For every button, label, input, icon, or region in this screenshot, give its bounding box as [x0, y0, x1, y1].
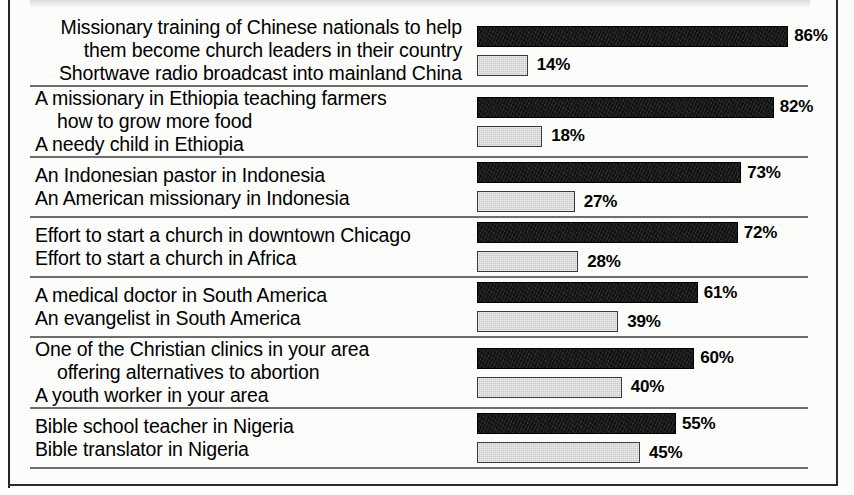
bar-label-b: A youth worker in your area [35, 384, 468, 407]
bar-group: Missionary training of Chinese nationals… [30, 16, 808, 87]
bar-group-inner: An Indonesian pastor in IndonesiaAn Amer… [30, 158, 808, 216]
bar-group-inner: A medical doctor in South AmericaAn evan… [30, 278, 808, 336]
bar-row: 28% [477, 250, 808, 274]
bar-group: A missionary in Ethiopia teaching farmer… [30, 87, 808, 158]
bar-group-labels: An Indonesian pastor in IndonesiaAn Amer… [30, 164, 468, 210]
bar-group-bars: 86%14% [468, 24, 828, 77]
bar-group-labels: One of the Christian clinics in your are… [30, 338, 468, 407]
bar-label-a: how to grow more food [35, 110, 468, 133]
paired-bar-chart: Missionary training of Chinese nationals… [30, 16, 808, 474]
bar-label-a: Effort to start a church in downtown Chi… [35, 224, 468, 247]
bar-group-labels: Missionary training of Chinese nationals… [30, 16, 468, 85]
bar-row: 86% [477, 24, 828, 48]
bar-row: 14% [477, 53, 828, 77]
bar-label-a: A missionary in Ethiopia teaching farmer… [35, 87, 468, 110]
bar-group-bars: 82%18% [468, 95, 813, 148]
bar-label-a: Missionary training of Chinese nationals… [35, 16, 462, 39]
bar-label-b: A needy child in Ethiopia [35, 133, 468, 156]
bar-value-label: 18% [551, 126, 584, 146]
page-frame-bottom-border [8, 484, 838, 486]
bar-group-labels: Effort to start a church in downtown Chi… [30, 224, 468, 270]
bar-dark [477, 348, 694, 369]
bar-group-bars: 72%28% [468, 221, 808, 274]
bar-row: 40% [477, 375, 808, 399]
bar-row: 60% [477, 346, 808, 370]
bar-group: One of the Christian clinics in your are… [30, 338, 808, 409]
page-frame-left-border [8, 0, 10, 488]
bar-group-labels: A missionary in Ethiopia teaching farmer… [30, 87, 468, 156]
bar-value-label: 14% [537, 55, 570, 75]
bar-value-label: 72% [744, 223, 777, 243]
scanned-page: Missionary training of Chinese nationals… [0, 0, 854, 495]
bar-group: Bible school teacher in NigeriaBible tra… [30, 409, 808, 469]
bar-row: 82% [477, 95, 813, 119]
bar-group-labels: A medical doctor in South AmericaAn evan… [30, 284, 468, 330]
bar-group-inner: Missionary training of Chinese nationals… [30, 16, 808, 85]
bar-group-bars: 73%27% [468, 161, 808, 214]
bar-label-a: One of the Christian clinics in your are… [35, 338, 468, 361]
bar-label-a: A medical doctor in South America [35, 284, 468, 307]
bar-label-a: offering alternatives to abortion [35, 361, 468, 384]
bar-group-labels: Bible school teacher in NigeriaBible tra… [30, 415, 468, 461]
bar-group: An Indonesian pastor in IndonesiaAn Amer… [30, 158, 808, 218]
bar-label-b: Bible translator in Nigeria [35, 438, 468, 461]
bar-value-label: 73% [747, 163, 780, 183]
bar-light [477, 126, 542, 147]
bar-value-label: 39% [627, 312, 660, 332]
bar-label-b: An evangelist in South America [35, 307, 468, 330]
bar-light [477, 191, 575, 212]
page-frame-right-border [836, 0, 838, 486]
bar-light [477, 442, 640, 463]
bar-row: 27% [477, 190, 808, 214]
bar-value-label: 61% [704, 283, 737, 303]
bar-light [477, 251, 578, 272]
bar-label-a: An Indonesian pastor in Indonesia [35, 164, 468, 187]
bar-light [477, 311, 618, 332]
bar-row: 45% [477, 441, 808, 465]
bar-label-a: Bible school teacher in Nigeria [35, 415, 468, 438]
bar-label-b: An American missionary in Indonesia [35, 187, 468, 210]
bar-value-label: 27% [584, 192, 617, 212]
bar-group-inner: One of the Christian clinics in your are… [30, 338, 808, 407]
bar-group-bars: 61%39% [468, 281, 808, 334]
bar-light [477, 55, 528, 76]
bar-dark [477, 413, 676, 434]
bar-row: 73% [477, 161, 808, 185]
bar-value-label: 82% [780, 97, 813, 117]
bar-value-label: 45% [649, 443, 682, 463]
bar-dark [477, 282, 698, 303]
bar-group-bars: 60%40% [468, 346, 808, 399]
bar-value-label: 55% [682, 414, 715, 434]
bar-group-inner: A missionary in Ethiopia teaching farmer… [30, 87, 808, 156]
bar-row: 18% [477, 124, 813, 148]
bar-dark [477, 162, 741, 183]
bar-group: A medical doctor in South AmericaAn evan… [30, 278, 808, 338]
bar-group-inner: Bible school teacher in NigeriaBible tra… [30, 409, 808, 467]
bar-label-a: them become church leaders in their coun… [35, 39, 462, 62]
bar-row: 61% [477, 281, 808, 305]
bar-row: 39% [477, 310, 808, 334]
bar-label-b: Shortwave radio broadcast into mainland … [35, 62, 462, 85]
bar-dark [477, 26, 788, 47]
bar-value-label: 40% [631, 377, 664, 397]
bar-row: 55% [477, 412, 808, 436]
bar-value-label: 28% [587, 252, 620, 272]
bar-value-label: 86% [794, 26, 827, 46]
bar-dark [477, 222, 738, 243]
bar-row: 72% [477, 221, 808, 245]
bar-dark [477, 97, 774, 118]
bar-group-bars: 55%45% [468, 412, 808, 465]
page-frame-top-edge [30, 0, 810, 9]
bar-light [477, 377, 622, 398]
bar-group-inner: Effort to start a church in downtown Chi… [30, 218, 808, 276]
bar-group: Effort to start a church in downtown Chi… [30, 218, 808, 278]
bar-value-label: 60% [700, 348, 733, 368]
bar-label-b: Effort to start a church in Africa [35, 247, 468, 270]
